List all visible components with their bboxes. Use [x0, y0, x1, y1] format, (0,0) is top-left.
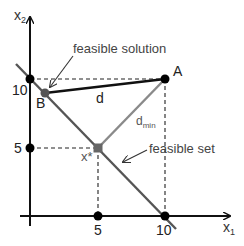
point-a — [161, 75, 170, 84]
point-y5 — [26, 144, 35, 153]
label-b: B — [36, 95, 45, 111]
x-axis-label: x1 — [223, 219, 235, 237]
point-x5 — [94, 212, 103, 221]
x-tick-5: 5 — [94, 222, 102, 238]
label-feasible-solution: feasible solution — [73, 41, 166, 56]
d-min-line — [98, 79, 165, 148]
label-d-min: dmin — [136, 114, 156, 130]
point-x10 — [161, 212, 170, 221]
feasible-set-arrow — [123, 150, 147, 162]
x-tick-10: 10 — [156, 222, 172, 238]
label-a: A — [173, 63, 183, 79]
point-x-star — [94, 144, 103, 153]
label-feasible-set: feasible set — [149, 141, 215, 156]
feasible-solution-arrow — [50, 56, 73, 87]
label-d: d — [96, 90, 104, 106]
diagram-canvas: x2 x1 10 5 5 10 A B x* feasible solution… — [0, 0, 244, 246]
y-tick-10: 10 — [12, 82, 28, 98]
d-line — [45, 79, 165, 93]
y-axis-label: x2 — [14, 7, 26, 25]
y-tick-5: 5 — [14, 140, 22, 156]
label-x-star: x* — [81, 149, 93, 164]
